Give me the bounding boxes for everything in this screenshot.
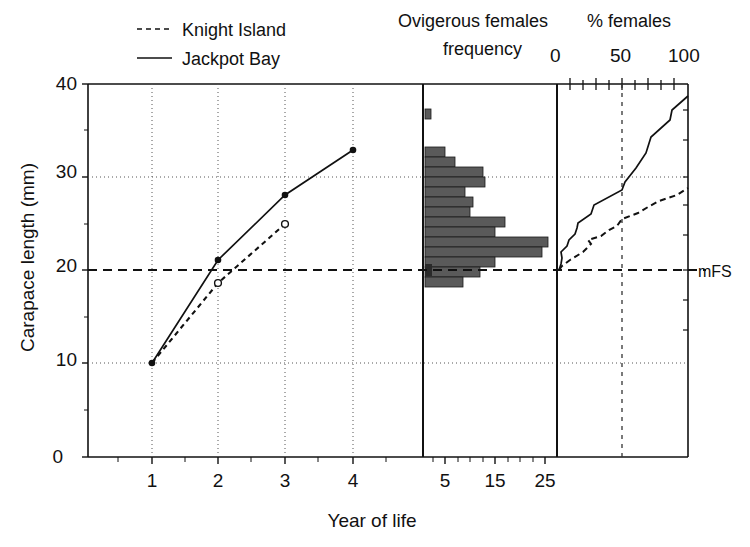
percent-line-jackpot-bay <box>559 96 688 270</box>
header-percent-females: % females <box>587 11 671 31</box>
y-axis-title: Carapace length (mm) <box>17 163 38 352</box>
bar-37mm <box>425 109 431 119</box>
y-axis: Carapace length (mm) 0 10 20 30 40 <box>17 73 88 467</box>
bar-31mm <box>425 177 485 187</box>
bar-21mm <box>425 277 463 287</box>
pct-tick-100: 100 <box>668 45 700 66</box>
legend-label-jackpot-bay: Jackpot Bay <box>182 49 280 69</box>
panel-percent-females <box>557 78 688 457</box>
series-line-jackpot-bay <box>152 150 353 363</box>
x-axis: 1 2 3 4 5 15 25 Year of life <box>88 457 688 531</box>
percent-line-knight-island <box>559 188 688 270</box>
bar-32mm <box>425 167 483 177</box>
bar-29mm <box>425 197 473 207</box>
bar-25mm <box>425 237 548 247</box>
percent-axis-tick-labels: 0 50 100 <box>550 45 700 66</box>
panel-ovigerous-frequency <box>423 84 557 457</box>
x-label-year-2: 2 <box>213 470 224 491</box>
x-label-year-1: 1 <box>147 470 158 491</box>
x-axis-title: Year of life <box>327 510 416 531</box>
legend: Knight Island Jackpot Bay <box>137 20 286 69</box>
bar-33mm <box>425 157 455 167</box>
bar-34mm <box>425 147 445 157</box>
x-label-year-4: 4 <box>348 470 359 491</box>
datapoint-jackpot-bay-y3 <box>282 192 289 199</box>
pct-tick-50: 50 <box>610 45 631 66</box>
bar-23mm <box>425 257 495 267</box>
mfs-label: mFS <box>698 263 732 280</box>
bar-24mm <box>425 247 542 257</box>
y-tick-20: 20 <box>56 255 77 276</box>
figure-root: Knight Island Jackpot Bay Ovigerous fema… <box>0 0 750 547</box>
x-label-freq-5: 5 <box>440 470 451 491</box>
y-tick-40: 40 <box>56 73 77 94</box>
x-label-freq-25: 25 <box>534 470 555 491</box>
datapoint-jackpot-bay-y2 <box>215 257 222 264</box>
bar-27mm <box>425 217 505 227</box>
y-tick-0: 0 <box>52 446 63 467</box>
bar-28mm <box>425 207 470 217</box>
bar-30mm <box>425 187 465 197</box>
x-label-year-3: 3 <box>280 470 291 491</box>
x-label-freq-15: 15 <box>484 470 505 491</box>
y-tick-10: 10 <box>56 349 77 370</box>
chart-svg: Knight Island Jackpot Bay Ovigerous fema… <box>0 0 750 547</box>
datapoint-knight-island-y2 <box>215 280 222 287</box>
mfs-reference: mFS <box>88 263 732 280</box>
header-frequency-line2: frequency <box>443 39 522 59</box>
datapoint-jackpot-bay-y4 <box>350 147 357 154</box>
series-markers-jackpot-bay <box>149 147 357 367</box>
legend-label-knight-island: Knight Island <box>182 20 286 40</box>
bar-22mm <box>425 267 480 277</box>
header-frequency-line1: Ovigerous females <box>398 11 548 31</box>
histogram-bars <box>425 109 548 287</box>
pct-tick-0: 0 <box>550 45 561 66</box>
y-tick-30: 30 <box>56 161 77 182</box>
bar-26mm <box>425 227 495 237</box>
datapoint-knight-island-y3 <box>282 221 289 228</box>
